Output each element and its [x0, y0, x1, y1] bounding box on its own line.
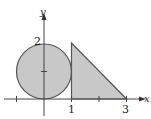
x-tick-label-3: 3: [122, 103, 129, 116]
y-axis-label: y: [39, 6, 46, 17]
region-diagram: y x 2 1 3: [0, 0, 151, 119]
x-axis-label: x: [144, 93, 150, 104]
y-tick-label-2: 2: [34, 35, 41, 48]
x-tick-label-1: 1: [68, 103, 75, 116]
triangle-region: [72, 43, 127, 99]
